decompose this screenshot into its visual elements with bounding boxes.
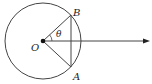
label-b: B xyxy=(72,7,80,18)
geometry-diagram: O B A θ xyxy=(0,0,152,84)
radius-oa xyxy=(43,41,71,67)
label-o: O xyxy=(31,42,39,53)
label-a: A xyxy=(72,71,80,82)
center-point xyxy=(41,39,46,44)
arrowhead-icon xyxy=(143,39,150,44)
label-theta: θ xyxy=(56,29,62,39)
angle-arc xyxy=(50,35,52,41)
